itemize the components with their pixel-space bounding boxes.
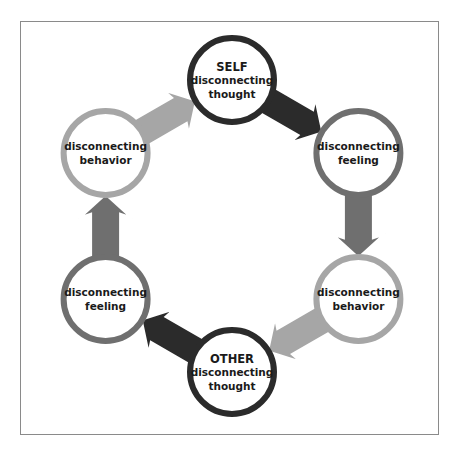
node-other-thought: OTHERdisconnectingthought <box>190 330 274 414</box>
node-label-line: disconnecting <box>191 366 274 378</box>
node-label-line: behavior <box>80 154 133 166</box>
node-label-line: thought <box>208 88 255 100</box>
node-label-line: disconnecting <box>317 140 400 152</box>
node-label-line: disconnecting <box>191 74 274 86</box>
node-self-behavior: disconnectingbehavior <box>316 257 400 341</box>
node-other-behavior: disconnectingbehavior <box>64 111 148 195</box>
node-other-feeling: disconnectingfeeling <box>64 257 148 341</box>
node-label-line: OTHER <box>210 352 254 366</box>
node-label-line: thought <box>208 380 255 392</box>
node-label-line: feeling <box>85 300 126 312</box>
node-label-line: feeling <box>338 154 379 166</box>
node-self-feeling: disconnectingfeeling <box>316 111 400 195</box>
node-label-line: disconnecting <box>317 286 400 298</box>
cycle-diagram: SELFdisconnectingthoughtdisconnectingfee… <box>0 0 459 455</box>
node-label-line: SELF <box>216 60 247 74</box>
node-self-thought: SELFdisconnectingthought <box>190 38 274 122</box>
node-label-line: disconnecting <box>64 140 147 152</box>
node-label-line: disconnecting <box>64 286 147 298</box>
node-label-line: behavior <box>332 300 385 312</box>
